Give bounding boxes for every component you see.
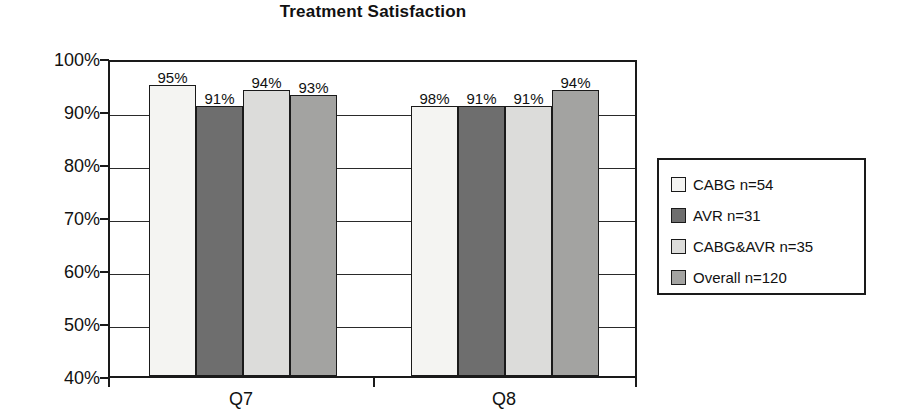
y-tick-label-40: 40% — [26, 368, 100, 389]
y-tick-label-100: 100% — [26, 50, 100, 71]
y-tick-label-90: 90% — [26, 103, 100, 124]
bar-q8-series-3 — [552, 90, 599, 376]
legend-swatch-icon — [671, 270, 686, 285]
bar-value-label: 91% — [466, 90, 496, 107]
x-tick-mark — [373, 378, 375, 387]
legend-label: Overall n=120 — [693, 270, 787, 285]
legend-item-avr[interactable]: AVR n=31 — [671, 200, 864, 230]
y-tick-label-80: 80% — [26, 156, 100, 177]
legend-swatch-icon — [671, 177, 686, 192]
legend-item-cabg[interactable]: CABG n=54 — [671, 169, 864, 199]
x-axis: Q7 Q8 — [108, 378, 637, 414]
bar-q8-series-0 — [411, 106, 458, 376]
bar-value-label: 94% — [251, 74, 281, 91]
y-tick-label-70: 70% — [26, 209, 100, 230]
legend-label: CABG&AVR n=35 — [693, 239, 813, 254]
legend-swatch-icon — [671, 239, 686, 254]
y-tick-label-60: 60% — [26, 262, 100, 283]
x-tick-label-q7: Q7 — [229, 389, 253, 410]
bar-value-label: 93% — [298, 79, 328, 96]
legend-item-cabg-avr[interactable]: CABG&AVR n=35 — [671, 231, 864, 261]
bar-value-label: 91% — [204, 90, 234, 107]
y-tick-label-50: 50% — [26, 315, 100, 336]
legend-label: CABG n=54 — [693, 177, 773, 192]
plot-area: 95%91%94%93%98%91%91%94% — [108, 60, 637, 378]
chart-title: Treatment Satisfaction — [108, 2, 638, 22]
bar-value-label: 91% — [513, 90, 543, 107]
bar-value-label: 95% — [157, 69, 187, 86]
bar-q8-series-1 — [458, 106, 505, 376]
y-axis: 100% 90% 80% 70% 60% 50% 40% — [14, 60, 100, 378]
bar-value-label: 94% — [560, 74, 590, 91]
chart-legend: CABG n=54 AVR n=31 CABG&AVR n=35 Overall… — [657, 158, 866, 295]
bar-q7-series-3 — [290, 95, 337, 376]
legend-label: AVR n=31 — [693, 208, 761, 223]
x-tick-mark — [635, 378, 637, 387]
bar-q7-series-0 — [149, 85, 196, 377]
bar-value-label: 98% — [419, 90, 449, 107]
legend-swatch-icon — [671, 208, 686, 223]
bar-q8-series-2 — [505, 106, 552, 376]
bar-q7-series-2 — [243, 90, 290, 376]
legend-item-overall[interactable]: Overall n=120 — [671, 262, 864, 292]
bar-q7-series-1 — [196, 106, 243, 376]
x-tick-label-q8: Q8 — [492, 389, 516, 410]
x-tick-mark — [108, 378, 110, 387]
